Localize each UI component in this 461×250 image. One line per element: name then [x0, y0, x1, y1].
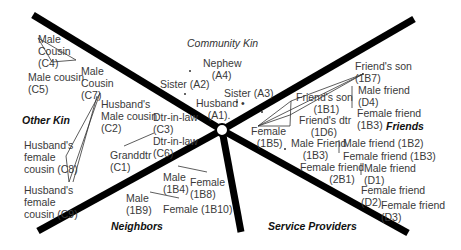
- node-male-1b9: Male (1B9): [126, 192, 152, 216]
- region-neighbors: Neighbors: [111, 220, 163, 232]
- node-female-1b10: Female (1B10): [163, 203, 232, 215]
- node-male-friend-d1: Male friend (D1): [364, 162, 416, 186]
- node-friends-son-1b1: Friend's son (1B1): [296, 91, 353, 115]
- node-husbands-male-cousin-c2: Husband's Male cousin (C2): [101, 98, 157, 134]
- node-female-1b8: Female (1B8): [190, 176, 225, 200]
- node-dtr-in-law-c6: Dtr-in-law (C6): [153, 135, 198, 159]
- node-husband-a1: Husband • (A1).: [196, 97, 245, 121]
- node-dtr-in-law-c3: Dtr-in-law (C3): [153, 111, 198, 135]
- node-male-cousin-c5: Male cousin (C5): [28, 71, 84, 95]
- node-husbands-female-cousin-c8: Husband's female cousin (C8): [24, 139, 78, 175]
- node-friends-dtr-1d6: Friend's dtr (1D6): [299, 114, 351, 138]
- node-male-friend-1b3: Male Friend (1B3): [291, 137, 346, 161]
- node-friends-son-1b7: Friend's son (1B7): [355, 60, 412, 84]
- region-community-kin: Community Kin: [187, 37, 258, 49]
- node-female-1b5: Female (1B5): [251, 125, 286, 149]
- node-husbands-female-cousin-c9: Husband's female cousin (C9): [24, 184, 78, 220]
- node-female-friend-d3: Female friend (D3): [381, 199, 445, 223]
- node-granddtr-c1: Granddtr (C1): [110, 149, 151, 173]
- node-male-friend-d4: Male friend (D4): [358, 84, 410, 108]
- node-male-cousin-c7: Male Cousin (C7): [81, 65, 114, 101]
- ego-node: [216, 124, 228, 136]
- region-other-kin: Other Kin: [22, 114, 70, 126]
- node-female-friend-1b3-a: Female friend (1B3): [357, 107, 421, 131]
- node-male-cousin-c4: Male Cousin (C4): [38, 33, 71, 69]
- node-male-1b4: Male (1B4): [163, 171, 189, 195]
- node-male-friend-1b2: Male friend (1B2): [343, 137, 424, 149]
- node-female-friend-2b1: Female friend (2B1): [300, 161, 364, 185]
- node-female-friend-1b3-b: Female friend (1B3): [343, 150, 436, 162]
- region-service-providers: Service Providers: [268, 220, 357, 232]
- node-sister-a2: Sister (A2): [160, 78, 210, 90]
